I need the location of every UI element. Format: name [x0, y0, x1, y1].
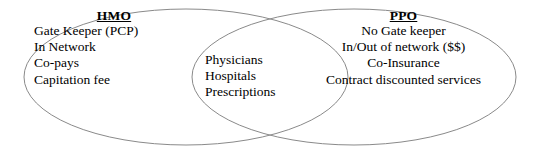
left-set-item: In Network	[34, 39, 202, 55]
left-set-item: Gate Keeper (PCP)	[34, 23, 202, 39]
left-set-title: HMO	[34, 8, 202, 23]
right-set-item: No Gate keeper	[296, 23, 511, 39]
intersection-item: Physicians	[205, 52, 301, 68]
venn-diagram: HMO Gate Keeper (PCP) In Network Co-pays…	[0, 0, 537, 156]
left-set-item: Capitation fee	[34, 72, 202, 88]
right-set-region: PPO No Gate keeper In/Out of network ($$…	[296, 8, 511, 88]
right-set-title: PPO	[296, 8, 511, 23]
left-set-item: Co-pays	[34, 55, 202, 71]
intersection-item: Hospitals	[205, 68, 301, 84]
right-set-item: Contract discounted services	[296, 72, 511, 88]
intersection-item: Prescriptions	[205, 84, 301, 100]
right-set-item: Co-Insurance	[296, 55, 511, 71]
intersection-region: Physicians Hospitals Prescriptions	[205, 52, 301, 101]
right-set-item: In/Out of network ($$)	[296, 39, 511, 55]
left-set-region: HMO Gate Keeper (PCP) In Network Co-pays…	[34, 8, 202, 88]
